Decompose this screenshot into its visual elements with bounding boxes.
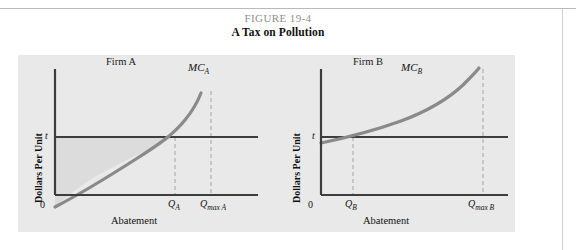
firm-b-qb-tick-sub: B [352, 203, 357, 212]
firm-a-qmax-tick: Qmax A [200, 198, 226, 212]
firm-b-origin-label: 0 [308, 199, 313, 210]
firm-a-x-axis-label: Abatement [111, 215, 157, 226]
firm-b-curve-label-main: MC [401, 61, 418, 73]
page-right-rule [562, 9, 563, 250]
firm-a-qa-tick: QA [168, 198, 180, 212]
firm-a-qa-tick-sub: A [175, 203, 180, 212]
firm-a-curve-label: MCA [188, 61, 209, 76]
firm-a-y-axis-label: Dollars Per Unit [33, 133, 44, 203]
firm-b-tax-label: t [312, 130, 315, 141]
firm-b-mc-curve [321, 68, 479, 143]
figure-panel: Firm A Dollars Per Unit Abatement 0 t MC… [18, 55, 515, 232]
firm-b-curve-label-sub: B [418, 67, 423, 76]
firm-b-curve-label: MCB [401, 61, 422, 76]
firm-b-title: Firm B [353, 56, 383, 67]
firm-a-tax-label: t [45, 130, 48, 141]
firm-b-y-axis-label: Dollars Per Unit [291, 133, 302, 203]
firm-b-x-axis-label: Abatement [363, 215, 409, 226]
figure-caption: FIGURE 19-4 A Tax on Pollution [0, 12, 556, 39]
firm-a-qmax-tick-sub: max A [207, 203, 226, 212]
firm-a-title: Firm A [106, 56, 136, 67]
firm-a-plot [18, 55, 283, 232]
firm-a-curve-label-sub: A [205, 67, 210, 76]
figure-page: FIGURE 19-4 A Tax on Pollution Firm A [0, 0, 576, 250]
page-top-rule [0, 8, 576, 9]
firm-a-curve-label-main: MC [188, 61, 205, 73]
figure-number: FIGURE 19-4 [0, 12, 556, 25]
firm-b-qmax-tick: Qmax B [468, 198, 494, 212]
chart-firm-a: Firm A Dollars Per Unit Abatement 0 t MC… [18, 55, 283, 232]
firm-b-qb-tick: QB [345, 198, 357, 212]
firm-a-origin-label: 0 [40, 199, 45, 210]
firm-b-qmax-tick-sub: max B [475, 203, 494, 212]
figure-title: A Tax on Pollution [0, 25, 556, 39]
chart-firm-b: Firm B Dollars Per Unit Abatement 0 t MC… [283, 55, 515, 232]
